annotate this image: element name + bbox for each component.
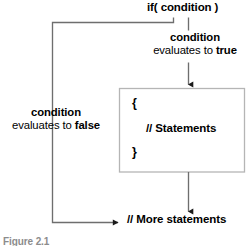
false-branch-phrase: evaluates to — [12, 119, 75, 131]
statements-comment: // Statements — [146, 122, 216, 135]
true-branch-value: true — [216, 44, 237, 56]
false-branch-keyword: condition — [2, 106, 110, 119]
figure-caption: Figure 2.1 — [3, 236, 49, 246]
true-branch-phrase: evaluates to — [153, 44, 216, 56]
true-branch-keyword: condition — [143, 31, 247, 44]
more-statements-node: // More statements — [127, 213, 226, 226]
false-branch-value: false — [75, 119, 100, 131]
statements-close-brace: } — [132, 145, 137, 159]
statements-open-brace: { — [132, 96, 137, 110]
if-condition-header: if( condition ) — [147, 1, 218, 14]
false-branch-label: condition evaluates to false — [2, 106, 110, 131]
true-branch-label: condition evaluates to true — [143, 31, 247, 56]
if-statement-flow-diagram: if( condition ) condition evaluates to t… — [0, 0, 251, 246]
